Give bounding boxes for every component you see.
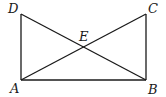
point-label-b: B [147, 82, 158, 97]
point-label-d: D [7, 1, 19, 16]
labels-group: ABCDE [7, 1, 158, 97]
segments-group [21, 14, 146, 80]
point-label-a: A [9, 81, 19, 96]
rectangle-diagonals-diagram: ABCDE [0, 0, 166, 97]
point-label-c: C [148, 1, 158, 16]
point-label-e: E [78, 29, 89, 44]
